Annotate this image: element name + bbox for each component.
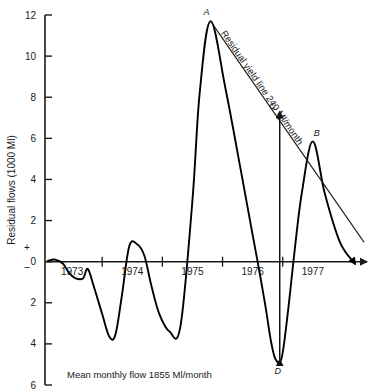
- x-tick-label: 1973: [61, 266, 84, 277]
- y-tick-label: 4: [30, 338, 36, 349]
- chart-canvas: 121086420246 19731974197519761977 ABCD R…: [0, 0, 374, 391]
- y-tick-label: 6: [30, 133, 36, 144]
- negative-sign-label: –: [24, 261, 30, 272]
- chart-background: [0, 0, 374, 391]
- y-tick-label: 8: [30, 92, 36, 103]
- y-tick-label: 6: [30, 380, 36, 391]
- y-tick-label: 2: [30, 215, 36, 226]
- y-tick-label: 10: [25, 51, 37, 62]
- positive-sign-label: +: [24, 242, 30, 253]
- x-tick-label: 1977: [302, 266, 325, 277]
- x-tick-label: 1975: [181, 266, 204, 277]
- y-tick-label: 4: [30, 174, 36, 185]
- point-label-d: D: [274, 366, 281, 376]
- point-label-a: A: [203, 7, 210, 17]
- residual-mass-curve-chart: 121086420246 19731974197519761977 ABCD R…: [0, 0, 374, 391]
- point-label-b: B: [314, 128, 320, 138]
- y-axis-title: Residual flows (1000 Ml): [6, 135, 17, 245]
- y-tick-label: 12: [25, 10, 37, 21]
- chart-caption: Mean monthly flow 1855 Ml/month: [67, 369, 212, 380]
- y-tick-label: 0: [30, 256, 36, 267]
- y-tick-label: 2: [30, 297, 36, 308]
